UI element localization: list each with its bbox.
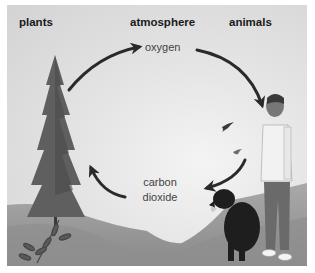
arrow-plants-to-oxygen	[69, 47, 139, 90]
arrow-co2-to-plants	[91, 168, 125, 197]
arrow-oxygen-to-animals	[197, 50, 262, 105]
label-carbon-dioxide: carbon dioxide	[135, 175, 185, 205]
header-plants: plants	[19, 16, 53, 28]
arrow-animals-to-co2	[207, 160, 245, 188]
birds-icon	[222, 122, 242, 154]
label-carbon: carbon	[135, 175, 185, 190]
header-atmosphere: atmosphere	[130, 16, 195, 28]
label-dioxide: dioxide	[135, 190, 185, 205]
label-oxygen: oxygen	[145, 40, 180, 55]
diagram-illustration: plants atmosphere animals oxygen carbon …	[7, 5, 307, 266]
header-animals: animals	[229, 16, 272, 28]
